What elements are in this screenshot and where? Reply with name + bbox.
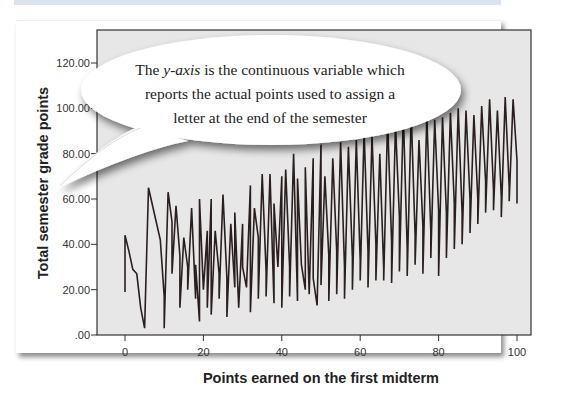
svg-text:letter at the end of the semes: letter at the end of the semester (173, 109, 368, 126)
x-tick-label: 60 (354, 346, 366, 358)
x-tick-label: 80 (432, 346, 444, 358)
svg-text:The y-axis is the continuous v: The y-axis is the continuous variable wh… (135, 61, 405, 78)
annotation-text: The y-axis is the continuous variable wh… (135, 61, 405, 126)
y-axis-label: Total semester grade points (35, 87, 51, 279)
x-tick-label: 100 (508, 346, 526, 358)
x-tick-label: 20 (197, 346, 209, 358)
x-axis: 020406080100 (122, 335, 526, 358)
y-tick-label: 40.00 (62, 238, 90, 250)
y-tick-label: 20.00 (62, 284, 90, 296)
y-tick-label: 120.00 (56, 57, 90, 69)
y-tick-label: 60.00 (62, 193, 90, 205)
svg-text:reports the actual points used: reports the actual points used to assign… (145, 85, 395, 102)
y-tick-label: 100.00 (56, 102, 90, 114)
x-axis-label: Points earned on the first midterm (203, 370, 439, 386)
y-tick-label: 80.00 (62, 148, 90, 160)
line-chart: .0020.0040.0060.0080.00100.00120.00 0204… (0, 0, 579, 419)
x-tick-label: 0 (122, 346, 128, 358)
y-tick-label: .00 (75, 329, 90, 341)
x-tick-label: 40 (276, 346, 288, 358)
